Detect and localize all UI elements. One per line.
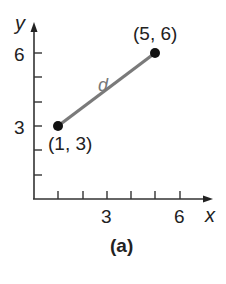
x-axis-label: x (205, 205, 215, 225)
y-tick-label-6: 6 (14, 45, 25, 64)
point-label-1-3: (1, 3) (48, 134, 92, 153)
point-1-3 (53, 121, 63, 131)
point-5-6 (150, 48, 160, 58)
x-ticks (58, 191, 180, 199)
y-axis-arrow-icon (31, 22, 38, 32)
x-tick-label-3: 3 (101, 207, 112, 226)
y-axis-label: y (15, 13, 25, 33)
point-label-5-6: (5, 6) (133, 24, 177, 43)
segment-label-d: d (98, 76, 108, 94)
y-tick-label-3: 3 (14, 118, 25, 137)
figure-caption: (a) (110, 236, 133, 255)
x-tick-label-6: 6 (174, 207, 185, 226)
y-ticks (34, 53, 42, 175)
x-axis-arrow-icon (203, 196, 213, 203)
